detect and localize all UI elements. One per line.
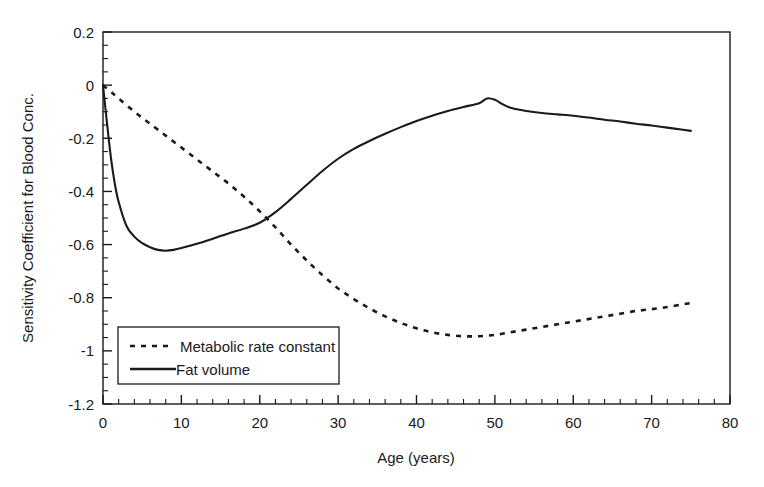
- x-axis-tick-labels: 01020304050607080: [99, 414, 739, 431]
- y-tick-label: 0: [86, 77, 94, 94]
- x-tick-label: 50: [487, 414, 504, 431]
- y-tick-label: -1: [81, 342, 94, 359]
- x-tick-label: 10: [173, 414, 190, 431]
- y-tick-label: -0.6: [68, 236, 94, 253]
- y-tick-label: -0.4: [68, 183, 94, 200]
- chart-legend: Metabolic rate constant Fat volume: [118, 327, 339, 384]
- legend-label-fat-volume: Fat volume: [176, 361, 250, 378]
- x-axis-title: Age (years): [377, 449, 455, 466]
- series-metabolic-rate-constant: [103, 85, 691, 336]
- y-axis-tick-labels: 0.20-0.2-0.4-0.6-0.8-1-1.2: [68, 24, 94, 413]
- y-tick-label: -1.2: [68, 396, 94, 413]
- x-tick-label: 60: [565, 414, 582, 431]
- series-fat-volume: [103, 85, 691, 251]
- y-tick-label: 0.2: [73, 24, 94, 41]
- sensitivity-coefficient-line-chart: 0.20-0.2-0.4-0.6-0.8-1-1.2 0102030405060…: [0, 0, 764, 487]
- y-tick-label: -0.8: [68, 289, 94, 306]
- x-tick-label: 30: [330, 414, 347, 431]
- x-tick-label: 20: [251, 414, 268, 431]
- chart-figure: 0.20-0.2-0.4-0.6-0.8-1-1.2 0102030405060…: [0, 0, 764, 487]
- y-tick-label: -0.2: [68, 130, 94, 147]
- x-axis-ticks: [103, 395, 730, 404]
- x-tick-label: 70: [643, 414, 660, 431]
- legend-label-metabolic-rate-constant: Metabolic rate constant: [180, 338, 336, 355]
- x-tick-label: 0: [99, 414, 107, 431]
- x-tick-label: 40: [408, 414, 425, 431]
- x-tick-label: 80: [722, 414, 739, 431]
- y-axis-title: Sensitivity Coefficient for Blood Conc.: [19, 93, 36, 343]
